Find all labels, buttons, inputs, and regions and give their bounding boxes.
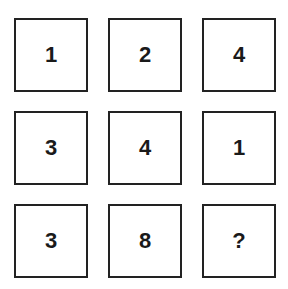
grid-cell-r2-c3: 1 [202,111,276,185]
grid-cell-r2-c1: 3 [14,111,88,185]
grid-cell-r3-c2: 8 [108,204,182,278]
grid-cell-r3-c1: 3 [14,204,88,278]
grid-cell-r1-c3: 4 [202,18,276,92]
grid-cell-r3-c3-unknown: ? [202,204,276,278]
grid-cell-r1-c1: 1 [14,18,88,92]
grid-cell-r1-c2: 2 [108,18,182,92]
grid-cell-r2-c2: 4 [108,111,182,185]
